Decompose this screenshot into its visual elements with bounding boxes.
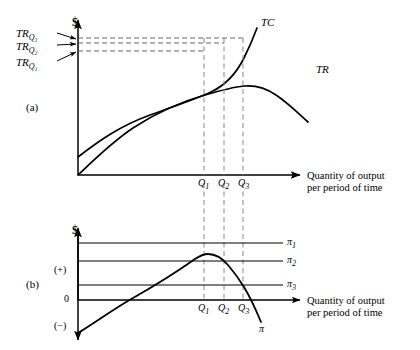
- panel-a-q2-label: Q2: [218, 177, 229, 192]
- positive-sign-label: (+): [54, 264, 66, 275]
- negative-sign-label: (−): [54, 320, 66, 331]
- total-revenue-label: TR: [316, 63, 329, 75]
- panel-a-q1-sub: 1: [205, 182, 209, 191]
- zero-label: 0: [64, 293, 69, 304]
- profit-curve-label: π: [259, 323, 264, 334]
- tr-q2-base: TR: [16, 40, 29, 52]
- pi3-sub: 3: [292, 283, 296, 292]
- pi1-sub: 1: [292, 241, 296, 250]
- panel-b-q2-label: Q2: [218, 302, 229, 317]
- panel-b-q3-label: Q3: [238, 302, 249, 317]
- total-cost-label: TC: [261, 16, 274, 28]
- tr-q3-pointer: [57, 33, 76, 39]
- pi3-label: π3: [287, 278, 296, 293]
- panel-b-axes: [78, 228, 300, 340]
- figure-container: (a) $ TRQ₃ TRQ₂ TRQ₁ TC TR Q1 Q2 Q3 Quan…: [0, 0, 420, 350]
- pi2-label: π2: [287, 254, 296, 269]
- panel-b-tag: (b): [26, 278, 39, 290]
- panel-a-q3-label: Q3: [238, 177, 249, 192]
- panel-b-q1-sub: 1: [205, 307, 209, 316]
- panel-a-dollar-symbol: $: [72, 16, 78, 29]
- panel-a-q3-sub: 3: [245, 182, 249, 191]
- pi1-label: π1: [287, 236, 296, 251]
- pi2-sub: 2: [292, 259, 296, 268]
- tr-q1-sub: Q₁: [29, 62, 38, 71]
- panel-b-q2-sub: 2: [225, 307, 229, 316]
- panel-a-q1-label: Q1: [198, 177, 209, 192]
- panel-a-x-caption-line1: Quantity of output: [307, 170, 385, 182]
- tr-q1-base: TR: [16, 56, 29, 68]
- profit-curve: [78, 254, 261, 333]
- panel-b-x-caption-line1: Quantity of output: [307, 295, 385, 307]
- panel-b-x-caption-line2: per period of time: [307, 307, 385, 319]
- total-cost-curve: [78, 28, 257, 157]
- panel-a-x-axis-caption: Quantity of output per period of time: [307, 170, 385, 193]
- panel-b-dollar-symbol: $: [72, 224, 78, 237]
- tr-q2-label: TRQ₂: [16, 40, 37, 56]
- tr-q2-sub: Q₂: [29, 46, 38, 55]
- panel-b-q1-label: Q1: [198, 302, 209, 317]
- tr-q1-pointer: [57, 52, 76, 61]
- panel-b-x-axis-caption: Quantity of output per period of time: [307, 295, 385, 318]
- tr-q2-pointer: [57, 44, 76, 45]
- panel-a-tag: (a): [26, 101, 38, 113]
- tr-q3-base: TR: [16, 27, 29, 39]
- tr-q1-label: TRQ₁: [16, 56, 37, 72]
- panel-a-x-caption-line2: per period of time: [307, 182, 385, 194]
- panel-b-q3-sub: 3: [245, 307, 249, 316]
- panel-a-q2-sub: 2: [225, 182, 229, 191]
- total-revenue-curve: [78, 86, 308, 175]
